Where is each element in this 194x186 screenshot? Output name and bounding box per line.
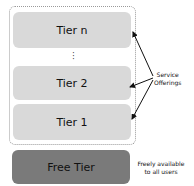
annotation-line: Offerings [154,79,181,87]
free-tier-annotation: Freely available to all users [130,160,192,176]
annotation-line: Freely available [130,160,192,168]
arrows [0,0,194,186]
arrow-to-tier-n [133,32,153,76]
service-offerings-annotation: Service Offerings [154,71,181,87]
annotation-line: Service [154,71,181,79]
annotation-line: to all users [130,168,192,176]
arrow-to-tier-1 [132,80,153,119]
